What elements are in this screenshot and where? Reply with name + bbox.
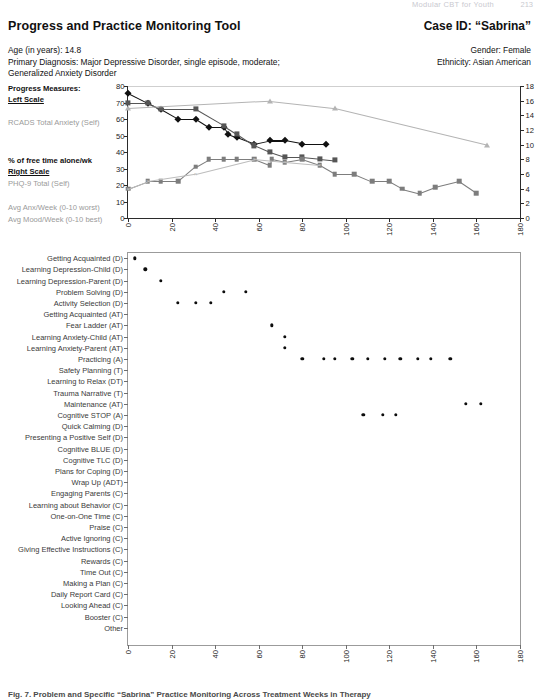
chart2-row-label: Cognitive STOP (A) — [57, 411, 123, 420]
running-header-text: Modular CBT for Youth — [412, 0, 494, 9]
chart2-data-point — [479, 402, 482, 405]
chart2-data-point — [270, 324, 273, 327]
chart2-data-point — [366, 357, 369, 360]
legend-right-scale-label: Right Scale — [8, 167, 49, 176]
chart2-xtickmark-0 — [128, 645, 129, 649]
chart2-xtick-20: 20 — [167, 650, 176, 658]
chart2-row-tickmark — [124, 415, 128, 416]
chart1-ytickmark-right-18 — [520, 86, 524, 87]
chart2-row-label: Engaging Parents (C) — [51, 489, 123, 498]
chart1-ytick-right-2: 2 — [526, 199, 530, 208]
chart2-data-point — [333, 357, 336, 360]
chart2-row-label: Active Ignoring (C) — [61, 534, 123, 543]
chart2-row-label: Cognitive TLC (D) — [63, 455, 123, 464]
chart1-ytickmark-right-14 — [520, 115, 524, 116]
chart2-xtick-160: 160 — [472, 650, 481, 663]
chart1-marker-square-dark — [252, 143, 257, 148]
chart1-ytick-right-10: 10 — [526, 140, 534, 149]
chart2-data-point — [429, 357, 432, 360]
chart2-row-label: Activity Selection (D) — [54, 299, 123, 308]
chart1-ytick-right-0: 0 — [526, 214, 530, 223]
chart1-line-segment — [161, 109, 196, 110]
diagnosis-line-1: Primary Diagnosis: Major Depressive Diso… — [8, 57, 280, 67]
chart2-row-label: Safety Planning (T) — [59, 366, 123, 375]
page-title: Progress and Practice Monitoring Tool — [8, 19, 241, 33]
chart2-row-tickmark — [124, 482, 128, 483]
legend-left-scale-label: Left Scale — [8, 95, 44, 104]
chart2-data-point — [283, 335, 286, 338]
chart1-plot-area: 0102030405060708002468101214161802040608… — [128, 86, 520, 218]
chart1-ytickmark-right-10 — [520, 145, 524, 146]
chart1-marker-diamond — [205, 124, 211, 130]
chart1-marker-square — [400, 186, 405, 191]
chart1-ytickmark-right-16 — [520, 101, 524, 102]
chart1-marker-square — [193, 164, 198, 169]
chart1-marker-square — [418, 191, 423, 196]
chart1-marker-cross: × — [283, 160, 287, 164]
chart1-ytickmark-left-40 — [124, 152, 128, 153]
chart2-row-label: Learning Depression-Child (D) — [22, 265, 123, 274]
chart2-row-tickmark — [124, 258, 128, 259]
chart2-xtickmark-80 — [302, 645, 303, 649]
chart1-xtickmark-0 — [128, 218, 129, 222]
chart1-ytick-right-8: 8 — [526, 155, 530, 164]
chart2-data-point — [394, 413, 397, 416]
chart1-xtickmark-100 — [346, 218, 347, 222]
chart1-ytickmark-left-50 — [124, 136, 128, 137]
chart1-xtickmark-20 — [172, 218, 173, 222]
chart2-row-label: Wrap Up (ADT) — [71, 478, 123, 487]
chart1-marker-square-dark — [234, 131, 239, 136]
chart2-row-label: Getting Acquainted (AT) — [44, 310, 124, 319]
chart2-row-label: Problem Solving (D) — [56, 287, 123, 296]
chart1-marker-cross: × — [126, 187, 130, 191]
chart2-row-label: Making a Plan (C) — [63, 579, 123, 588]
chart1-xtickmark-140 — [433, 218, 434, 222]
chart2-row-tickmark — [124, 437, 128, 438]
chart1-ytick-right-18: 18 — [526, 82, 534, 91]
chart1-marker-triangle — [125, 106, 131, 111]
chart1-bottom-axis — [127, 218, 521, 219]
chart2-data-point — [416, 357, 419, 360]
chart1-marker-square — [300, 157, 305, 162]
chart2-xtickmark-180 — [520, 645, 521, 649]
chart1-ytickmark-left-10 — [124, 202, 128, 203]
chart2-row-label: Rewards (C) — [81, 556, 123, 565]
chart2-row-label: Practicing (A) — [78, 355, 123, 364]
running-header-page-number: 213 — [520, 0, 533, 9]
chart2-row-tickmark — [124, 359, 128, 360]
chart2-data-point — [351, 357, 354, 360]
ethnicity-field: Ethnicity: Asian American — [437, 57, 531, 67]
chart2-data-point — [381, 413, 384, 416]
chart2-row-tickmark — [124, 572, 128, 573]
chart2-row-label: One-on-One Time (C) — [50, 511, 123, 520]
chart2-row-label: Praise (C) — [89, 523, 123, 532]
chart2-xtick-80: 80 — [298, 650, 307, 658]
chart2-row-tickmark — [124, 538, 128, 539]
chart2-data-point — [222, 290, 225, 293]
chart1-marker-square-dark — [267, 149, 272, 154]
chart2-xtick-100: 100 — [341, 650, 350, 663]
chart2-row-tickmark — [124, 381, 128, 382]
chart1-line-segment — [335, 108, 488, 145]
chart2-row-tickmark — [124, 269, 128, 270]
page-root: Modular CBT for Youth 213 Progress and P… — [0, 0, 541, 700]
chart1-marker-square — [267, 163, 272, 168]
chart2-row-label: Trauma Narrative (T) — [53, 388, 123, 397]
chart2-xtickmark-120 — [389, 645, 390, 649]
chart2-data-point — [283, 346, 286, 349]
chart1-line-segment — [270, 101, 335, 109]
chart2-row-tickmark — [124, 281, 128, 282]
figure-caption: Fig. 7. Problem and Specific “Sabrina” P… — [8, 690, 533, 699]
chart1-marker-triangle — [332, 106, 338, 111]
chart1-marker-square-dark — [332, 158, 337, 163]
chart2-row-label: Other — [104, 623, 123, 632]
chart1-ytickmark-right-8 — [520, 159, 524, 160]
chart2-row-tickmark — [124, 617, 128, 618]
chart1-marker-square — [433, 185, 438, 190]
chart2-row-tickmark — [124, 605, 128, 606]
chart1-marker-square — [235, 157, 240, 162]
chart1-ytickmark-left-30 — [124, 169, 128, 170]
chart1-ytickmark-right-12 — [520, 130, 524, 131]
chart1-xtickmark-180 — [520, 218, 521, 222]
chart1-marker-cross: × — [252, 157, 256, 161]
